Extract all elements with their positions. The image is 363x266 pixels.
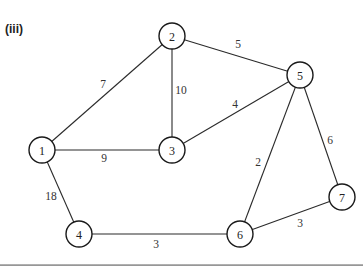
edge-weight-label: 10 bbox=[175, 84, 187, 96]
node-label: 4 bbox=[76, 228, 82, 242]
node-label: 1 bbox=[39, 144, 45, 158]
node-1: 1 bbox=[29, 137, 55, 163]
weighted-graph: 751049182633 1234567 bbox=[0, 0, 363, 266]
edge-1-2 bbox=[42, 36, 172, 150]
node-6: 6 bbox=[227, 221, 253, 247]
edge-weight-label: 3 bbox=[297, 217, 303, 229]
node-label: 7 bbox=[339, 191, 345, 205]
edge-weight-label: 18 bbox=[45, 190, 57, 202]
node-label: 3 bbox=[169, 144, 175, 158]
edge-weight-label: 2 bbox=[255, 156, 261, 168]
edge-weight-label: 6 bbox=[327, 134, 333, 146]
edge-weight-label: 3 bbox=[153, 238, 159, 250]
node-2: 2 bbox=[159, 23, 185, 49]
edge-5-7 bbox=[300, 75, 342, 197]
edge-weight-label: 7 bbox=[100, 78, 106, 90]
node-7: 7 bbox=[329, 184, 355, 210]
node-3: 3 bbox=[159, 137, 185, 163]
edge-weight-label: 9 bbox=[101, 152, 107, 164]
graph-nodes: 1234567 bbox=[29, 23, 355, 247]
node-label: 5 bbox=[297, 69, 303, 83]
edge-weight-label: 5 bbox=[235, 38, 241, 50]
node-4: 4 bbox=[66, 221, 92, 247]
edge-6-7 bbox=[240, 197, 342, 234]
edge-weight-label: 4 bbox=[232, 98, 238, 110]
edge-3-5 bbox=[172, 75, 300, 150]
node-label: 2 bbox=[169, 30, 175, 44]
node-5: 5 bbox=[287, 62, 313, 88]
edge-5-6 bbox=[240, 75, 300, 234]
node-label: 6 bbox=[237, 228, 243, 242]
